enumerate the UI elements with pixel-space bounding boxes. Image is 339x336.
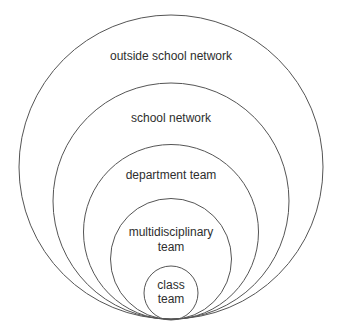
label-class-line1: class <box>157 278 184 292</box>
label-multidisciplinary-line2: team <box>158 240 185 254</box>
label-class-line2: team <box>158 292 185 306</box>
label-school-network: school network <box>131 111 212 125</box>
label-department-team: department team <box>126 168 217 182</box>
label-outside-school-network: outside school network <box>110 49 233 63</box>
nested-circles-diagram: outside school network school network de… <box>0 0 339 336</box>
label-multidisciplinary-line1: multidisciplinary <box>129 225 214 239</box>
